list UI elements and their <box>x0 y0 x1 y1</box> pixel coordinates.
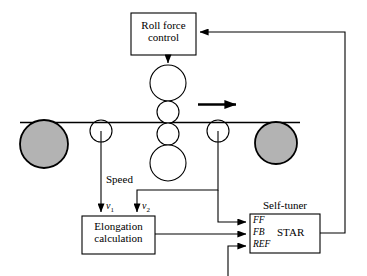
diagram-canvas: Roll force control Elongation calculatio… <box>0 0 367 276</box>
elongation-calculation-label: Elongation calculation <box>82 221 155 244</box>
work-roll-top <box>157 101 179 123</box>
port-label-fb: FB <box>253 228 265 238</box>
elongation-calculation-label-line2: calculation <box>82 233 155 245</box>
self-tuner-label: Self-tuner <box>250 200 320 212</box>
payoff-reel <box>20 120 68 168</box>
v2-subscript: 2 <box>146 206 150 214</box>
port-label-ff: FF <box>253 216 265 226</box>
elongation-calculation-label-line1: Elongation <box>82 221 155 233</box>
star-label: STAR <box>277 227 317 239</box>
v1-subscript: 1 <box>110 206 114 214</box>
speed-label: Speed <box>106 174 133 186</box>
tension-reel <box>255 122 297 164</box>
roll-force-control-label: Roll force control <box>131 20 196 43</box>
ff-input-line <box>218 190 246 222</box>
roll-force-control-label-line2: control <box>131 32 196 44</box>
port-label-ref: REF <box>253 240 270 250</box>
backup-roll-bottom <box>150 145 186 181</box>
ref-input-line <box>228 246 246 276</box>
work-roll-bottom <box>157 123 179 145</box>
v2-label: v2 <box>142 201 150 214</box>
roll-force-control-label-line1: Roll force <box>131 20 196 32</box>
v1-label: v1 <box>106 201 114 214</box>
backup-roll-top <box>150 65 186 101</box>
